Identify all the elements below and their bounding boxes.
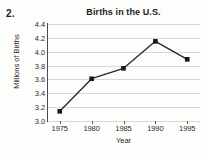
data-point-marker: 1980: 3.61 xyxy=(89,76,94,81)
x-tick-mark xyxy=(155,121,156,124)
x-tick-label: 1975 xyxy=(52,124,68,133)
x-tick-label: 1980 xyxy=(83,124,99,133)
y-tick-label: 4.0 xyxy=(35,47,45,56)
x-axis-title: Year xyxy=(47,136,200,145)
y-axis-title: Millions of Births xyxy=(12,22,21,102)
y-tick-label: 3.4 xyxy=(35,89,45,98)
data-line xyxy=(60,41,188,111)
line-series: 1975: 3.141980: 3.611985: 3.761990: 4.15… xyxy=(47,24,200,121)
y-tick-label: 3.2 xyxy=(35,103,45,112)
x-tick-mark xyxy=(60,121,61,124)
x-tick-label: 1995 xyxy=(179,124,195,133)
data-point-marker: 1990: 4.15 xyxy=(153,39,158,44)
data-point-marker: 1975: 3.14 xyxy=(57,109,62,114)
chart-figure: 2. Births in the U.S. 4.44.24.03.83.63.4… xyxy=(0,0,207,159)
y-tick-label: 4.4 xyxy=(35,20,45,29)
x-tick-label: 1985 xyxy=(115,124,131,133)
problem-number: 2. xyxy=(6,8,15,19)
x-tick-mark xyxy=(187,121,188,124)
x-axis-tick-labels: 19751980198519901995 xyxy=(47,124,200,136)
data-point-marker: 1985: 3.76 xyxy=(121,66,126,71)
x-tick-mark xyxy=(124,121,125,124)
y-tick-label: 3.0 xyxy=(35,117,45,126)
data-point-marker: 1995: 3.89 xyxy=(185,57,190,62)
x-tick-label: 1990 xyxy=(147,124,163,133)
x-tick-mark xyxy=(92,121,93,124)
chart-title: Births in the U.S. xyxy=(46,7,201,17)
y-tick-label: 3.8 xyxy=(35,61,45,70)
y-tick-label: 3.6 xyxy=(35,75,45,84)
y-axis-tick-labels: 4.44.24.03.83.63.43.23.0 xyxy=(27,24,45,121)
y-tick-label: 4.2 xyxy=(35,33,45,42)
